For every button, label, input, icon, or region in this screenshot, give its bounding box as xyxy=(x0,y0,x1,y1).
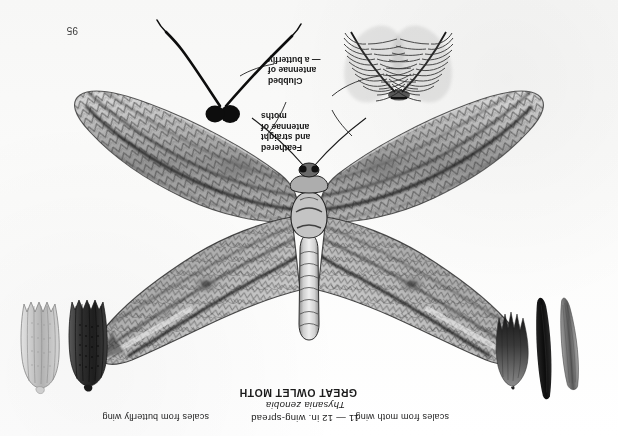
specimen-scientific-name: Thysania zenobia xyxy=(266,400,345,411)
annotation-moth-line-4: moths xyxy=(261,111,347,122)
annotation-butterfly-line-2: antennae of xyxy=(268,65,354,76)
narrow-tapered-scale xyxy=(558,297,580,390)
pale-ribbed-scale xyxy=(21,302,59,394)
caption-moth-scales: scales from moth wing xyxy=(355,412,449,422)
annotation-moth-line-1: Feathered xyxy=(261,143,347,154)
annotation-moth-antennae: Feathered and straight antennae of moths xyxy=(261,111,347,153)
butterfly-scales-figure xyxy=(6,288,116,396)
dark-ribbed-scale xyxy=(69,300,107,392)
forewing-right xyxy=(80,201,320,376)
caption-butterfly-scales: scales from butterfly wing xyxy=(102,412,209,422)
hindwing-right xyxy=(60,76,310,236)
dark-blade-scale xyxy=(534,297,553,399)
specimen-wing-spread: 11 — 12 in. wing-spread xyxy=(251,413,359,424)
annotation-butterfly-antennae: Clubbed antennae of — a butterfly xyxy=(268,55,354,87)
fringed-fingered-scale xyxy=(496,312,528,390)
annotation-butterfly-line-1: Clubbed xyxy=(268,76,354,87)
book-page: scales from moth wing scales from butter… xyxy=(0,0,618,436)
page-number: 95 xyxy=(66,25,78,36)
annotation-moth-line-2: and straight xyxy=(261,132,347,143)
annotation-moth-line-3: antennae of xyxy=(261,122,347,133)
specimen-common-name: GREAT OWLET MOTH xyxy=(239,387,357,399)
moth-scales-figure xyxy=(474,288,604,398)
annotation-butterfly-line-3: — a butterfly xyxy=(268,55,354,66)
